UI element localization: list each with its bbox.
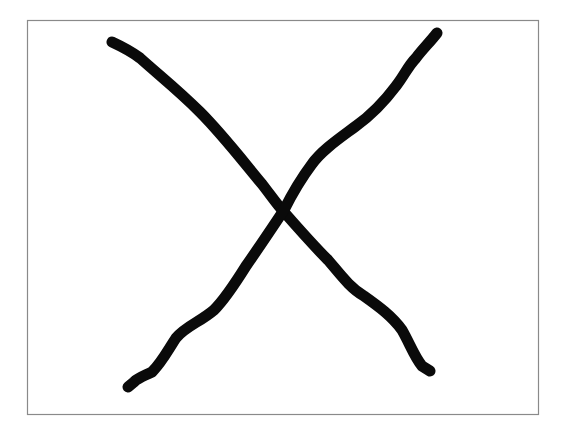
drawing-canvas bbox=[0, 0, 565, 433]
